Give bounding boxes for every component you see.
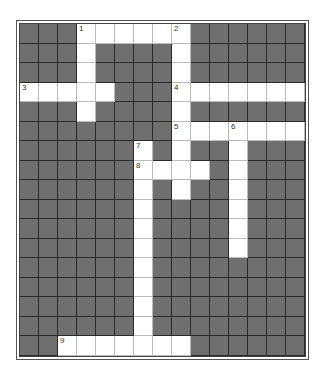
answer-cell[interactable] <box>267 83 286 103</box>
answer-cell[interactable] <box>191 161 210 181</box>
block-cell <box>77 180 96 200</box>
answer-cell[interactable] <box>58 83 77 103</box>
block-cell <box>248 200 267 220</box>
answer-cell[interactable] <box>172 44 191 64</box>
answer-cell[interactable] <box>77 83 96 103</box>
block-cell <box>96 44 115 64</box>
block-cell <box>115 278 134 298</box>
answer-cell[interactable] <box>134 297 153 317</box>
answer-cell[interactable] <box>77 44 96 64</box>
answer-cell[interactable] <box>229 141 248 161</box>
answer-cell[interactable] <box>153 24 172 44</box>
answer-cell[interactable] <box>115 24 134 44</box>
block-cell <box>248 161 267 181</box>
answer-cell[interactable] <box>96 83 115 103</box>
block-cell <box>286 258 305 278</box>
block-cell <box>210 297 229 317</box>
answer-cell[interactable] <box>210 122 229 142</box>
answer-cell[interactable] <box>267 122 286 142</box>
block-cell <box>210 102 229 122</box>
answer-cell[interactable] <box>77 102 96 122</box>
answer-cell[interactable] <box>134 219 153 239</box>
answer-cell[interactable]: 2 <box>172 24 191 44</box>
block-cell <box>39 180 58 200</box>
answer-cell[interactable]: 1 <box>77 24 96 44</box>
answer-cell[interactable]: 9 <box>58 336 77 356</box>
block-cell <box>153 83 172 103</box>
answer-cell[interactable] <box>77 336 96 356</box>
answer-cell[interactable] <box>210 83 229 103</box>
answer-cell[interactable] <box>39 83 58 103</box>
clue-number: 1 <box>79 25 83 33</box>
crossword-grid: 123456789 <box>20 24 305 356</box>
block-cell <box>134 122 153 142</box>
answer-cell[interactable] <box>229 180 248 200</box>
block-cell <box>39 63 58 83</box>
answer-cell[interactable] <box>134 336 153 356</box>
answer-cell[interactable] <box>96 336 115 356</box>
block-cell <box>267 278 286 298</box>
answer-cell[interactable] <box>286 122 305 142</box>
block-cell <box>96 297 115 317</box>
answer-cell[interactable] <box>191 83 210 103</box>
block-cell <box>153 239 172 259</box>
answer-cell[interactable] <box>134 278 153 298</box>
block-cell <box>248 317 267 337</box>
block-cell <box>191 102 210 122</box>
block-cell <box>20 44 39 64</box>
answer-cell[interactable] <box>153 161 172 181</box>
answer-cell[interactable] <box>115 336 134 356</box>
answer-cell[interactable] <box>229 200 248 220</box>
answer-cell[interactable]: 5 <box>172 122 191 142</box>
block-cell <box>39 24 58 44</box>
block-cell <box>20 122 39 142</box>
answer-cell[interactable] <box>134 24 153 44</box>
answer-cell[interactable] <box>248 83 267 103</box>
answer-cell[interactable] <box>134 239 153 259</box>
answer-cell[interactable] <box>134 317 153 337</box>
answer-cell[interactable] <box>96 24 115 44</box>
answer-cell[interactable]: 4 <box>172 83 191 103</box>
answer-cell[interactable] <box>153 336 172 356</box>
block-cell <box>58 317 77 337</box>
block-cell <box>210 219 229 239</box>
block-cell <box>134 63 153 83</box>
block-cell <box>20 278 39 298</box>
answer-cell[interactable] <box>172 63 191 83</box>
answer-cell[interactable] <box>172 161 191 181</box>
answer-cell[interactable] <box>134 180 153 200</box>
block-cell <box>191 297 210 317</box>
answer-cell[interactable]: 8 <box>134 161 153 181</box>
answer-cell[interactable] <box>286 83 305 103</box>
answer-cell[interactable] <box>229 161 248 181</box>
answer-cell[interactable] <box>77 63 96 83</box>
answer-cell[interactable] <box>172 336 191 356</box>
block-cell <box>115 102 134 122</box>
block-cell <box>286 141 305 161</box>
block-cell <box>248 297 267 317</box>
answer-cell[interactable] <box>172 141 191 161</box>
block-cell <box>39 336 58 356</box>
block-cell <box>153 297 172 317</box>
answer-cell[interactable] <box>229 83 248 103</box>
clue-number: 9 <box>60 337 64 345</box>
answer-cell[interactable]: 3 <box>20 83 39 103</box>
answer-cell[interactable] <box>172 102 191 122</box>
answer-cell[interactable]: 7 <box>134 141 153 161</box>
block-cell <box>39 161 58 181</box>
answer-cell[interactable] <box>172 180 191 200</box>
block-cell <box>210 63 229 83</box>
answer-cell[interactable] <box>229 219 248 239</box>
answer-cell[interactable] <box>134 258 153 278</box>
block-cell <box>58 44 77 64</box>
block-cell <box>153 102 172 122</box>
answer-cell[interactable]: 6 <box>229 122 248 142</box>
answer-cell[interactable] <box>248 122 267 142</box>
block-cell <box>286 63 305 83</box>
block-cell <box>20 219 39 239</box>
block-cell <box>153 258 172 278</box>
answer-cell[interactable] <box>229 239 248 259</box>
block-cell <box>286 44 305 64</box>
answer-cell[interactable] <box>134 200 153 220</box>
answer-cell[interactable] <box>191 122 210 142</box>
